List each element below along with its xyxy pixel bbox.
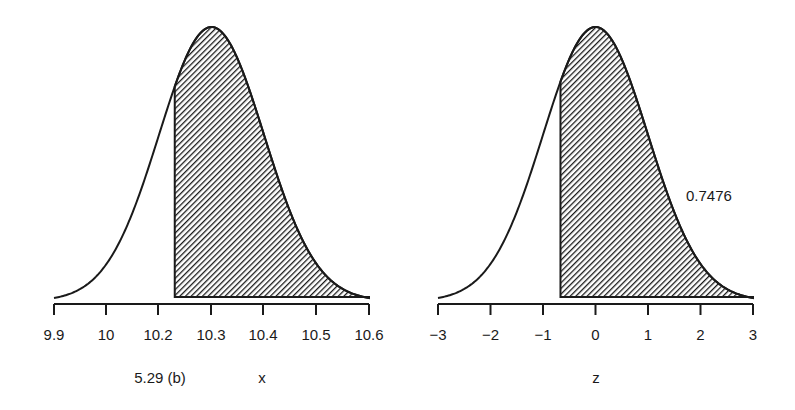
left-tick-label: 10.5: [301, 326, 330, 343]
right-tick-label: 1: [644, 326, 652, 343]
left-x-axis-title: x: [258, 369, 266, 386]
right-x-axis-title: z: [592, 369, 600, 386]
right-tick-label: 0: [591, 326, 599, 343]
left-tick-label: 10.4: [248, 326, 277, 343]
figure-canvas: 9.91010.210.310.410.510.6 5.29 (b) x −3−…: [0, 0, 795, 410]
right-tick-label: −2: [482, 326, 499, 343]
right-chart: −3−2−10123 0.7476 z: [429, 27, 757, 386]
left-tick-label: 10.6: [354, 326, 383, 343]
left-caption: 5.29 (b): [134, 369, 186, 386]
left-tick-label: 10.2: [143, 326, 172, 343]
left-x-axis: 9.91010.210.310.410.510.6: [44, 304, 384, 343]
right-x-axis: −3−2−10123: [429, 304, 757, 343]
right-tick-label: −1: [534, 326, 551, 343]
right-tick-label: 2: [696, 326, 704, 343]
shaded-area-annotation: 0.7476: [686, 187, 732, 204]
right-tick-label: −3: [429, 326, 446, 343]
left-tick-label: 10: [98, 326, 115, 343]
left-chart: 9.91010.210.310.410.510.6 5.29 (b) x: [44, 27, 384, 386]
left-tick-label: 10.3: [196, 326, 225, 343]
left-tick-label: 9.9: [44, 326, 65, 343]
right-tick-label: 3: [749, 326, 757, 343]
